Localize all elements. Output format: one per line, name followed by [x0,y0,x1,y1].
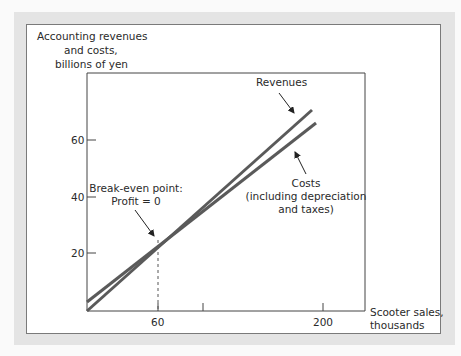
revenues-annotation: Revenues [256,76,307,88]
costs-annotation-line-2: (including depreciation [246,190,367,202]
revenues-arrow [279,93,294,113]
y-tick-label-20: 20 [71,247,84,259]
y-axis-label-line-1: Accounting revenues [37,30,147,42]
break-even-arrow [135,210,154,236]
costs-arrow [295,152,306,174]
y-tick-label-40: 40 [71,191,84,203]
costs-annotation-line-3: and taxes) [278,203,334,215]
y-axis-ticks: 20 40 60 [71,134,96,259]
y-tick-label-60: 60 [71,134,84,146]
costs-annotation-line-1: Costs [292,177,321,189]
x-axis-ticks: 60 200 [151,303,333,328]
break-even-annotation-line-2: Profit = 0 [111,195,161,207]
x-tick-label-200: 200 [313,316,333,328]
break-even-annotation-line-1: Break-even point: [89,182,183,194]
break-even-chart: Accounting revenues and costs, billions … [0,0,461,356]
x-axis-label-line-1: Scooter sales, [370,306,444,318]
x-axis-label-line-2: thousands [370,319,425,331]
x-tick-label-60: 60 [151,316,164,328]
y-axis-label-line-2: and costs, [64,44,118,56]
y-axis-label-line-3: billions of yen [55,58,128,70]
